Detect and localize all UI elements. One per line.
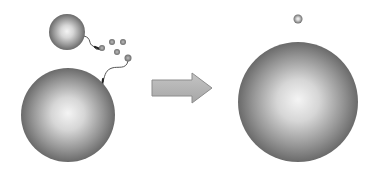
right-panel <box>238 15 358 163</box>
small-sphere-icon <box>49 14 85 50</box>
grown-sphere-icon <box>238 42 358 162</box>
attached-dot-icon <box>99 45 105 51</box>
free-dot-icon <box>114 49 120 55</box>
shrunken-sphere-icon <box>294 15 303 24</box>
free-dot-icon <box>109 39 115 45</box>
tether-line-icon <box>103 61 128 82</box>
large-sphere-icon <box>21 68 115 162</box>
left-panel <box>21 14 132 162</box>
free-dot-icon <box>125 55 132 62</box>
transition-arrow-icon <box>152 73 212 103</box>
diagram-canvas <box>0 0 376 174</box>
free-dot-icon <box>120 39 126 45</box>
